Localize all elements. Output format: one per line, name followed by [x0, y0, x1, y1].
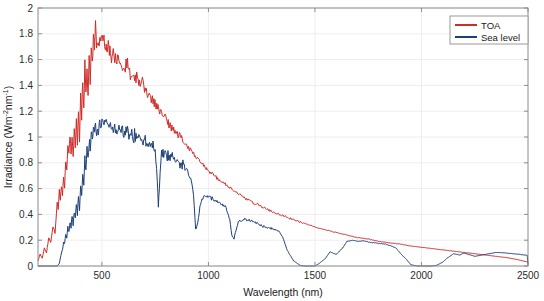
x-tick-label: 1500 [304, 270, 327, 281]
figure-container: 00.20.40.60.811.21.41.61.825001000150020… [0, 0, 544, 301]
spectral-irradiance-chart: 00.20.40.60.811.21.41.61.825001000150020… [0, 0, 544, 301]
y-tick-label: 0.2 [19, 235, 33, 246]
y-tick-label: 0.8 [19, 157, 33, 168]
x-tick-label: 500 [94, 270, 111, 281]
y-tick-label: 1.6 [19, 54, 33, 65]
x-tick-label: 2500 [517, 270, 540, 281]
y-tick-label: 1.8 [19, 28, 33, 39]
x-tick-label: 1000 [197, 270, 220, 281]
y-tick-label: 1 [27, 132, 33, 143]
y-tick-label: 0.4 [19, 209, 33, 220]
y-tick-label: 0.6 [19, 183, 33, 194]
legend-label-sea-level: Sea level [481, 32, 520, 43]
y-axis-label: Irradiance (Wm-2nm-1) [2, 86, 14, 188]
x-tick-label: 2000 [410, 270, 433, 281]
x-axis-label: Wavelength (nm) [243, 286, 323, 298]
y-tick-label: 2 [27, 3, 33, 14]
y-tick-label: 1.4 [19, 80, 33, 91]
y-tick-label: 1.2 [19, 106, 33, 117]
chart-canvas: 00.20.40.60.811.21.41.61.825001000150020… [0, 0, 544, 301]
svg-text:Irradiance (Wm-2nm-1): Irradiance (Wm-2nm-1) [2, 86, 14, 188]
legend-label-toa: TOA [481, 20, 501, 31]
legend: TOASea level [450, 16, 528, 44]
y-tick-label: 0 [27, 261, 33, 272]
